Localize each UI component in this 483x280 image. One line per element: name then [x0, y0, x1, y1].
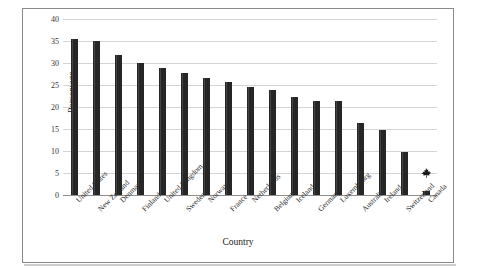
bar: [225, 82, 232, 195]
y-axis-tick-label: 35: [51, 37, 59, 46]
x-tick-cell: Finland: [129, 196, 151, 256]
x-axis-tick-labels: United StatesNew ZealandDenmarkFinlandUn…: [63, 196, 437, 256]
chart-figure: Percentage 0510152025303540 United State…: [22, 8, 454, 263]
y-axis-tick-label: 10: [51, 147, 59, 156]
bar: [203, 78, 210, 195]
bar-series: [63, 19, 437, 195]
plot-area: 0510152025303540: [63, 19, 437, 196]
bar: [335, 101, 342, 195]
x-tick-cell: Luxembourg: [327, 196, 349, 256]
bar: [247, 87, 254, 195]
bar-slot: [261, 19, 283, 195]
bar-slot: [239, 19, 261, 195]
y-axis-tick-label: 15: [51, 125, 59, 134]
bar: [313, 101, 320, 195]
x-tick-cell: Canada: [415, 196, 437, 256]
x-tick-cell: United States: [63, 196, 85, 256]
bar-slot: [129, 19, 151, 195]
bar: [115, 55, 122, 195]
x-tick-cell: Ireland: [371, 196, 393, 256]
x-tick-cell: France: [217, 196, 239, 256]
x-tick-cell: Switzerland: [393, 196, 415, 256]
x-tick-cell: Norway: [195, 196, 217, 256]
maple-leaf-icon: [420, 166, 433, 179]
y-axis-tick-label: 20: [51, 103, 59, 112]
figure-shadow: [24, 264, 456, 266]
bar: [291, 97, 298, 195]
x-axis-title: Country: [23, 237, 453, 247]
y-axis-tick-label: 5: [55, 169, 59, 178]
bar: [159, 68, 166, 195]
x-tick-cell: Iceland: [283, 196, 305, 256]
y-axis-tick-label: 40: [51, 15, 59, 24]
bar-slot: [305, 19, 327, 195]
x-tick-cell: Belgium: [261, 196, 283, 256]
bar: [379, 130, 386, 195]
x-tick-cell: Australia: [349, 196, 371, 256]
bar-slot: [393, 19, 415, 195]
y-axis-tick-label: 0: [55, 191, 59, 200]
x-tick-cell: Denmark: [107, 196, 129, 256]
bar-slot: [107, 19, 129, 195]
y-axis-tick-label: 25: [51, 81, 59, 90]
bar-slot: [283, 19, 305, 195]
bar-slot: [63, 19, 85, 195]
bar-slot: [217, 19, 239, 195]
bar-slot: [151, 19, 173, 195]
x-tick-cell: New Zealand: [85, 196, 107, 256]
x-tick-cell: Germany: [305, 196, 327, 256]
bar-slot: [415, 19, 437, 195]
bar-slot: [371, 19, 393, 195]
x-tick-cell: United Kingdom: [151, 196, 173, 256]
bar: [137, 63, 144, 195]
bar: [71, 39, 78, 195]
x-tick-cell: Sweden: [173, 196, 195, 256]
y-axis-tick-label: 30: [51, 59, 59, 68]
bar-slot: [349, 19, 371, 195]
x-tick-cell: Netherlands: [239, 196, 261, 256]
bar-slot: [327, 19, 349, 195]
bar-slot: [85, 19, 107, 195]
